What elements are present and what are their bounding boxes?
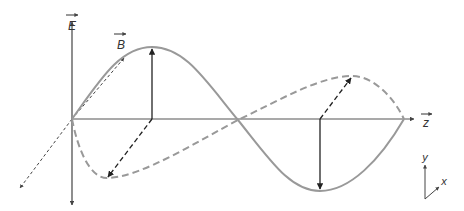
coordinate-indicator: y x xyxy=(421,151,447,199)
svg-text:y: y xyxy=(421,151,429,163)
label-e: E xyxy=(66,15,78,33)
svg-text:z: z xyxy=(422,116,429,130)
label-z: z xyxy=(421,114,432,130)
em-wave-diagram: E B z y x xyxy=(0,0,464,211)
b-field-wave xyxy=(72,76,404,178)
label-b: B xyxy=(114,34,126,52)
svg-text:x: x xyxy=(440,175,447,187)
b-axis-negative xyxy=(20,119,72,188)
b-axis xyxy=(72,58,124,119)
b-vector-forward xyxy=(320,78,351,119)
svg-text:E: E xyxy=(68,19,77,33)
svg-text:B: B xyxy=(117,38,125,52)
